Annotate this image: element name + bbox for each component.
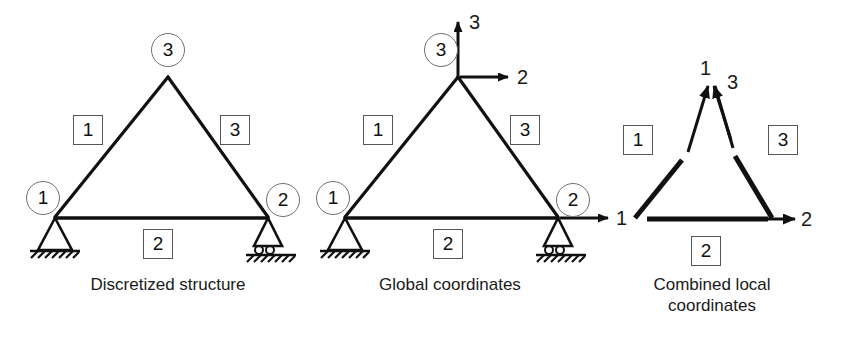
truss-member-right-a: [168, 77, 268, 217]
caption-combined-local-coordinates: Combined local coordinates: [580, 274, 844, 316]
dof-label-2: 2: [517, 67, 528, 87]
roller-support-icon-a: [246, 218, 296, 262]
node-marker-2-panel-a: 2: [266, 183, 300, 217]
element-label-3-panel-a: 3: [220, 115, 250, 145]
pinned-support-icon-a: [30, 218, 80, 258]
element-label-2-panel-b: 2: [433, 229, 463, 259]
truss-member-left-a: [55, 77, 168, 217]
caption-line-2: coordinates: [580, 295, 844, 316]
element-label-2-panel-c: 2: [691, 236, 721, 266]
local-label-1: 1: [700, 58, 711, 78]
caption-discretized-structure: Discretized structure: [18, 274, 318, 295]
roller-support-icon-b: [536, 218, 586, 262]
pinned-support-icon-b: [320, 218, 370, 258]
node-marker-2-panel-b: 2: [556, 183, 590, 217]
caption-global-coordinates: Global coordinates: [300, 274, 600, 295]
element-label-1-panel-c: 1: [623, 125, 653, 155]
element-label-2-panel-a: 2: [143, 229, 173, 259]
truss-member-right-b: [458, 77, 558, 217]
local-label-3: 3: [727, 72, 738, 92]
local-label-2: 2: [801, 209, 812, 229]
element-label-1-panel-a: 1: [73, 115, 103, 145]
local-axis-arrow-right: [714, 86, 772, 218]
node-marker-3-panel-b: 3: [424, 33, 458, 67]
dof-label-3: 3: [469, 12, 480, 32]
node-marker-1-panel-a: 1: [26, 181, 60, 215]
truss-member-left-b: [345, 77, 458, 217]
node-marker-3-panel-a: 3: [151, 33, 185, 67]
element-label-3-panel-b: 3: [510, 115, 540, 145]
node-marker-1-panel-b: 1: [316, 181, 350, 215]
figure-canvas: 1 2 3 1 2 3 1 2 3 1 2 3 3 2 1 1 2 3 1 3 …: [0, 0, 844, 344]
element-label-3-panel-c: 3: [768, 125, 798, 155]
dof-label-1: 1: [616, 208, 627, 228]
element-label-1-panel-b: 1: [363, 115, 393, 145]
caption-line-1: Combined local: [580, 274, 844, 295]
